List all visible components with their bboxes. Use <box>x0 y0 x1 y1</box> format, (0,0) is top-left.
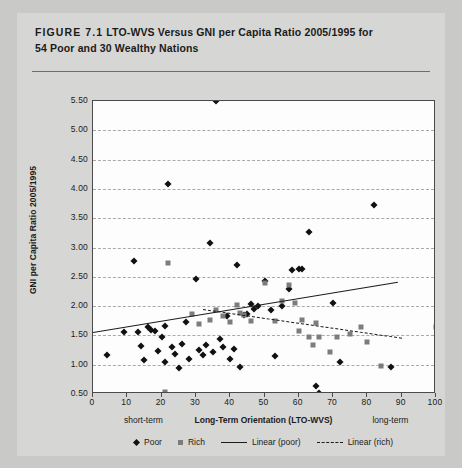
y-tick-label: 3.00 <box>48 242 88 252</box>
data-point-poor <box>213 100 220 105</box>
chart-legend: PoorRichLinear (poor)Linear (rich) <box>92 437 435 447</box>
data-point-rich <box>434 324 436 329</box>
legend-item[interactable]: Rich <box>178 437 205 447</box>
data-point-poor <box>268 307 275 314</box>
legend-label: Rich <box>188 437 205 447</box>
data-point-rich <box>207 317 212 322</box>
data-point-rich <box>286 283 291 288</box>
gridline <box>93 306 434 307</box>
data-point-poor <box>137 342 144 349</box>
data-point-poor <box>299 265 306 272</box>
y-tick-label: 5.00 <box>48 124 88 134</box>
data-point-rich <box>262 280 267 285</box>
square-icon <box>178 440 183 445</box>
data-point-poor <box>227 355 234 362</box>
data-point-rich <box>348 332 353 337</box>
y-axis-tick-labels: 0.501.001.502.002.503.003.504.004.505.00… <box>45 100 88 393</box>
data-point-poor <box>306 228 313 235</box>
figure-page: FIGURE 7.1 LTO-WVS Versus GNI per Capita… <box>0 0 462 468</box>
data-point-poor <box>206 240 213 247</box>
data-point-rich <box>228 319 233 324</box>
y-tick-label: 2.50 <box>48 271 88 281</box>
data-point-rich <box>307 334 312 339</box>
legend-label: Linear (poor) <box>252 437 301 447</box>
data-point-poor <box>203 342 210 349</box>
data-point-poor <box>185 356 192 363</box>
x-axis-note-right: long-term <box>345 415 435 425</box>
data-point-rich <box>317 334 322 339</box>
data-point-poor <box>182 318 189 325</box>
data-point-rich <box>334 335 339 340</box>
x-tick-label: 100 <box>415 397 455 407</box>
data-point-rich <box>300 318 305 323</box>
data-point-rich <box>293 301 298 306</box>
y-tick-label: 4.00 <box>48 183 88 193</box>
data-point-rich <box>310 342 315 347</box>
y-tick-label: 3.50 <box>48 212 88 222</box>
data-point-rich <box>235 302 240 307</box>
legend-item[interactable]: Linear (poor) <box>221 437 301 447</box>
gridline <box>93 160 434 161</box>
scatter-chart: GNI per Capita Ratio 2005/1995 0.501.001… <box>17 75 445 456</box>
data-point-poor <box>141 356 148 363</box>
data-point-rich <box>365 339 370 344</box>
legend-item[interactable]: Linear (rich) <box>317 437 393 447</box>
gridline <box>93 248 434 249</box>
dashed-line-icon <box>317 442 343 443</box>
data-point-poor <box>172 351 179 358</box>
trendline-poor <box>93 281 398 332</box>
y-tick-label: 1.00 <box>48 359 88 369</box>
data-point-rich <box>379 364 384 369</box>
figure-caption-line1: LTO-WVS Versus GNI per Capita Ratio 2005… <box>106 26 373 38</box>
gridline <box>93 218 434 219</box>
data-point-poor <box>220 344 227 351</box>
data-point-poor <box>288 266 295 273</box>
figure-caption: FIGURE 7.1 LTO-WVS Versus GNI per Capita… <box>35 24 427 57</box>
data-point-rich <box>248 319 253 324</box>
y-axis-title: GNI per Capita Ratio 2005/1995 <box>28 120 38 340</box>
data-point-rich <box>166 261 171 266</box>
data-point-poor <box>103 352 110 359</box>
diamond-icon <box>133 438 140 445</box>
data-point-poor <box>158 334 165 341</box>
data-point-poor <box>131 257 138 264</box>
legend-label: Linear (rich) <box>348 437 393 447</box>
y-tick-label: 4.50 <box>48 154 88 164</box>
y-tick-label: 2.00 <box>48 300 88 310</box>
legend-item[interactable]: Poor <box>134 437 162 447</box>
figure-card: FIGURE 7.1 LTO-WVS Versus GNI per Capita… <box>17 13 445 456</box>
plot-area <box>92 100 435 393</box>
data-point-poor <box>175 365 182 372</box>
solid-line-icon <box>221 442 247 443</box>
data-point-poor <box>199 351 206 358</box>
data-point-rich <box>358 325 363 330</box>
figure-caption-line2: 54 Poor and 30 Wealthy Nations <box>35 42 199 54</box>
data-point-poor <box>234 262 241 269</box>
data-point-rich <box>221 314 226 319</box>
gridline <box>93 189 434 190</box>
data-point-poor <box>179 341 186 348</box>
data-point-poor <box>371 202 378 209</box>
data-point-rich <box>296 329 301 334</box>
data-point-poor <box>155 348 162 355</box>
data-point-rich <box>197 321 202 326</box>
caption-divider <box>32 71 430 72</box>
data-point-poor <box>161 322 168 329</box>
x-axis-note-left: short-term <box>98 415 188 425</box>
y-tick-label: 5.50 <box>48 95 88 105</box>
data-point-rich <box>327 349 332 354</box>
data-point-poor <box>316 389 323 393</box>
data-point-poor <box>151 328 158 335</box>
figure-label: FIGURE 7.1 <box>35 26 103 38</box>
data-point-poor <box>216 335 223 342</box>
y-tick-label: 1.50 <box>48 329 88 339</box>
data-point-rich <box>163 390 168 393</box>
data-point-poor <box>210 349 217 356</box>
gridline <box>93 130 434 131</box>
data-point-poor <box>165 181 172 188</box>
data-point-poor <box>230 346 237 353</box>
data-point-poor <box>271 352 278 359</box>
legend-label: Poor <box>144 437 162 447</box>
